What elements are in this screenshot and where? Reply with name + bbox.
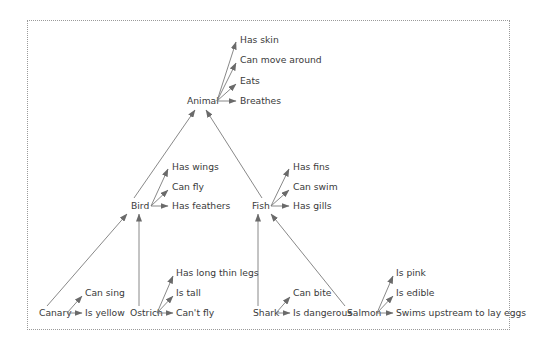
property-breathes: Breathes (240, 95, 281, 106)
node-label-bird: Bird (131, 200, 149, 211)
property-is-edible: Is edible (396, 287, 435, 298)
node-canary: Canary Can sing Is yellow (39, 287, 125, 318)
property-arrow (157, 296, 173, 313)
property-can-swim: Can swim (293, 181, 338, 192)
property-arrow (276, 297, 290, 313)
property-is-pink: Is pink (396, 267, 427, 278)
node-animal: Animal Has skin Can move around Eats Bre… (187, 34, 322, 106)
node-ostrich: Ostrich Has long thin legs Is tall Can't… (130, 267, 259, 318)
property-has-skin: Has skin (240, 34, 279, 45)
property-is-dangerous: Is dangerous (293, 307, 352, 318)
property-arrow (157, 276, 173, 313)
link-fish-to-animal (206, 110, 262, 198)
property-can-sing: Can sing (85, 287, 125, 298)
node-shark: Shark Can bite Is dangerous (253, 287, 352, 318)
node-fish: Fish Has fins Can swim Has gills (252, 161, 338, 211)
property-arrow (377, 296, 393, 313)
property-arrow (377, 276, 393, 313)
property-swims-upstream: Swims upstream to lay eggs (396, 307, 526, 318)
node-bird: Bird Has wings Can fly Has feathers (131, 161, 231, 211)
property-has-fins: Has fins (293, 161, 330, 172)
node-label-fish: Fish (252, 200, 270, 211)
property-arrow (217, 63, 236, 101)
property-arrow (151, 169, 168, 206)
property-has-gills: Has gills (293, 200, 332, 211)
property-arrow (271, 169, 289, 206)
node-label-salmon: Salmon (347, 307, 382, 318)
property-arrow (151, 190, 168, 206)
property-is-yellow: Is yellow (85, 307, 125, 318)
property-cant-fly: Can't fly (176, 307, 215, 318)
property-has-feathers: Has feathers (172, 200, 231, 211)
property-arrow (271, 190, 289, 206)
property-can-fly: Can fly (172, 181, 205, 192)
property-eats: Eats (240, 75, 260, 86)
node-label-animal: Animal (187, 95, 219, 106)
property-can-bite: Can bite (293, 287, 332, 298)
property-has-wings: Has wings (172, 161, 219, 172)
property-has-long-thin-legs: Has long thin legs (176, 267, 259, 278)
property-arrow (67, 296, 82, 313)
node-salmon: Salmon Is pink Is edible Swims upstream … (347, 267, 526, 318)
property-is-tall: Is tall (176, 287, 201, 298)
semantic-network-diagram: Animal Has skin Can move around Eats Bre… (0, 0, 536, 345)
property-can-move-around: Can move around (240, 54, 322, 65)
